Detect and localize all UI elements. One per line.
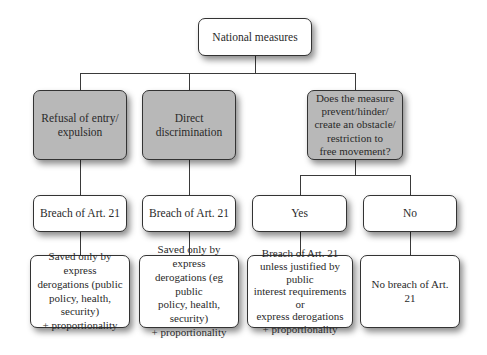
node-yes: Yes — [252, 195, 347, 232]
connector-to-question — [355, 73, 356, 90]
node-label: No breach of Art. 21 — [365, 278, 455, 306]
connector-level1-horizontal — [80, 73, 356, 74]
node-refusal-of-entry: Refusal of entry/ expulsion — [33, 90, 127, 160]
node-breach-1: Breach of Art. 21 — [33, 195, 127, 232]
node-breach-unless-justified: Breach of Art. 21 unless justified by pu… — [247, 255, 353, 328]
node-label: Direct discrimination — [156, 111, 222, 140]
node-label: Does the measure prevent/hinder/ create … — [314, 92, 395, 158]
node-label: National measures — [212, 30, 297, 44]
node-label: Saved only by express derogations (publi… — [35, 250, 125, 333]
connector-to-yes — [300, 175, 301, 195]
node-label: Saved only by express derogations (eg pu… — [144, 243, 234, 339]
node-national-measures: National measures — [198, 18, 312, 56]
connector-to-refusal — [80, 73, 81, 90]
node-label: Breach of Art. 21 unless justified by pu… — [252, 247, 348, 335]
node-label: No — [403, 206, 417, 220]
node-label: Breach of Art. 21 — [40, 206, 120, 220]
connector-direct-to-breach — [189, 160, 190, 195]
connector-question-down — [355, 160, 356, 175]
node-obstacle-question: Does the measure prevent/hinder/ create … — [307, 90, 403, 160]
node-label: Breach of Art. 21 — [149, 206, 229, 220]
node-label: Refusal of entry/ expulsion — [41, 111, 118, 140]
connector-to-direct — [189, 73, 190, 90]
node-saved-derogations-1: Saved only by express derogations (publi… — [30, 255, 130, 328]
node-no-breach: No breach of Art. 21 — [360, 255, 460, 328]
node-saved-derogations-2: Saved only by express derogations (eg pu… — [139, 255, 239, 328]
node-direct-discrimination: Direct discrimination — [142, 90, 236, 160]
connector-yes-no-horizontal — [300, 175, 411, 176]
node-no: No — [363, 195, 457, 232]
connector-no-to-result — [410, 232, 411, 255]
connector-to-no — [410, 175, 411, 195]
connector-root-down — [255, 56, 256, 73]
connector-refusal-to-breach — [80, 160, 81, 195]
node-label: Yes — [291, 206, 308, 220]
node-breach-2: Breach of Art. 21 — [142, 195, 236, 232]
